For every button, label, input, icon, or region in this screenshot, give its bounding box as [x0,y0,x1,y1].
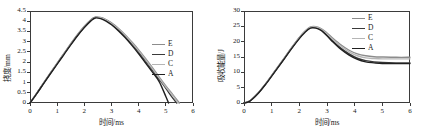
x-tick-label: 4 [129,108,149,115]
panel-deflection: 00.511.522.533.544.50123456 时间/ms 挠度/mm … [0,0,212,137]
x-tick-mark [354,103,355,106]
x-tick-label: 2 [74,108,94,115]
y-tick-label: 4 [0,17,26,24]
x-tick-mark [271,103,272,106]
x-tick-label: 1 [262,108,282,115]
y-tick-mark [27,41,30,42]
legend-swatch-A [352,48,365,49]
legend-item-E: E [152,40,173,48]
x-axis-title-deflection: 时间/ms [72,119,152,127]
y-tick-mark [27,72,30,73]
legend-item-A: A [352,44,373,52]
legend-label-E: E [168,40,173,48]
series-line-A [244,28,410,103]
plot-curves-deflection [0,0,212,137]
legend-label-E: E [368,14,373,22]
x-tick-mark [410,103,411,106]
y-tick-mark [27,92,30,93]
y-tick-label: 3 [0,38,26,45]
x-tick-mark [244,103,245,106]
y-tick-mark [27,21,30,22]
x-tick-mark [138,103,139,106]
figure-two-panel-line-charts: 00.511.522.533.544.50123456 时间/ms 挠度/mm … [0,0,425,137]
legend-item-D: D [352,24,373,32]
y-tick-label: 25 [214,22,240,29]
x-tick-label: 6 [183,108,203,115]
y-tick-label: 3.5 [0,27,26,34]
y-tick-mark [27,11,30,12]
y-tick-label: 0 [214,99,240,106]
panel-absorbed-energy: 0510152025300123456 时间/ms 吸收能量/J EDCA [212,0,425,137]
x-tick-mark [30,103,31,106]
x-tick-mark [327,103,328,106]
y-tick-mark [241,57,244,58]
x-tick-mark [193,103,194,106]
y-axis-title-absorbed-energy: 吸收能量/J [218,49,226,82]
legend-label-D: D [168,50,173,58]
x-tick-mark [57,103,58,106]
series-line-C [244,27,410,103]
x-tick-mark [84,103,85,106]
legend-label-A: A [168,70,173,78]
legend-deflection: EDCA [152,40,173,78]
y-tick-mark [241,72,244,73]
y-tick-mark [27,31,30,32]
x-tick-label: 1 [47,108,67,115]
legend-absorbed-energy: EDCA [352,14,373,52]
x-tick-label: 4 [345,108,365,115]
y-tick-mark [241,41,244,42]
y-tick-mark [241,11,244,12]
series-line-E [244,26,410,103]
x-tick-label: 3 [317,108,337,115]
y-tick-label: 0 [0,99,26,106]
legend-swatch-E [152,44,165,45]
y-tick-mark [27,62,30,63]
y-axis-title-deflection: 挠度/mm [4,54,12,82]
legend-label-D: D [368,24,373,32]
y-tick-mark [27,82,30,83]
y-tick-label: 0.5 [0,89,26,96]
series-line-D [244,27,410,103]
x-tick-mark [299,103,300,106]
x-tick-label: 5 [372,108,392,115]
legend-swatch-C [152,64,165,65]
legend-item-C: C [152,60,173,68]
y-tick-label: 20 [214,38,240,45]
legend-item-D: D [152,50,173,58]
y-tick-label: 30 [214,7,240,14]
legend-item-C: C [352,34,373,42]
y-tick-mark [241,87,244,88]
plot-curves-absorbed-energy [212,0,425,137]
legend-item-E: E [352,14,373,22]
y-tick-label: 5 [214,84,240,91]
y-tick-mark [241,26,244,27]
legend-swatch-E [352,18,365,19]
x-axis-title-absorbed-energy: 时间/ms [287,119,367,127]
x-tick-label: 0 [234,108,254,115]
y-tick-label: 4.5 [0,7,26,14]
x-tick-mark [382,103,383,106]
x-tick-label: 5 [156,108,176,115]
legend-swatch-D [152,54,165,55]
x-tick-mark [111,103,112,106]
x-tick-label: 2 [289,108,309,115]
x-tick-mark [165,103,166,106]
x-tick-label: 3 [102,108,122,115]
legend-label-A: A [368,44,373,52]
x-tick-label: 0 [20,108,40,115]
y-tick-mark [27,51,30,52]
legend-label-C: C [168,60,173,68]
legend-label-C: C [368,34,373,42]
legend-swatch-A [152,74,165,75]
legend-swatch-C [352,38,365,39]
legend-swatch-D [352,28,365,29]
legend-item-A: A [152,70,173,78]
x-tick-label: 6 [400,108,420,115]
